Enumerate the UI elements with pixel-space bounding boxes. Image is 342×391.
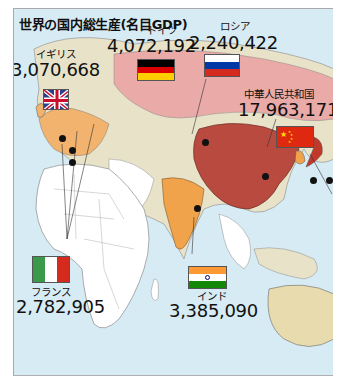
china-name: 中華人民共和国 [244, 89, 314, 100]
france-marker [69, 159, 76, 166]
uk-name: イギリス [36, 49, 76, 60]
india-marker [194, 205, 201, 212]
germany-gdp-value: 4,072,192 [107, 37, 196, 55]
germany-marker [69, 147, 76, 154]
india-flag-icon [188, 266, 227, 289]
france-gdp-value: 2,782,905 [16, 298, 105, 316]
frame-bottom-border [13, 375, 333, 376]
uk-gdp-value: 3,070,668 [13, 61, 100, 79]
russia-marker [202, 139, 209, 146]
russia-gdp-value: 2,240,422 [189, 34, 278, 52]
russia-flag-icon [204, 54, 240, 77]
china-flag-icon: ★★★★★ [276, 126, 314, 148]
germany-name: ドイツ [147, 25, 177, 36]
germany-flag-icon [137, 59, 175, 81]
russia-name: ロシア [220, 21, 250, 32]
korea-marker [310, 177, 317, 184]
japan-marker [326, 177, 333, 184]
china-gdp-value: 17,963,171 [238, 101, 333, 119]
uk-flag-icon [43, 89, 69, 110]
france-flag-icon [32, 256, 70, 283]
uk-marker [59, 135, 66, 142]
map-frame: 世界の国内総生産(名目GDP) イギリス 3,070,668 ドイツ 4,072… [13, 8, 333, 376]
china-marker [262, 173, 269, 180]
svg-text:★: ★ [288, 140, 291, 144]
svg-text:★: ★ [280, 130, 287, 139]
india-gdp-value: 3,385,090 [169, 302, 258, 320]
